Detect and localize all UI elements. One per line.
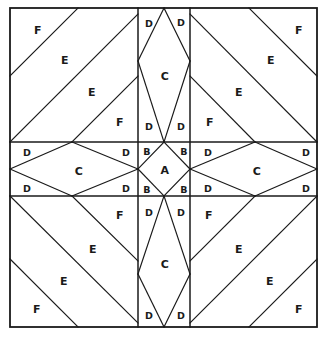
- piece-label-d: D: [145, 18, 153, 29]
- piece-label-a: A: [161, 164, 170, 177]
- quilt-block-diagram: FEEFDDCDDFEEFDCDDDBBABBDCDDDFEEFDDCDDFEE…: [0, 0, 326, 343]
- piece-label-d: D: [177, 121, 185, 132]
- piece-label-f: F: [206, 116, 214, 129]
- piece-label-e: E: [235, 243, 243, 256]
- piece-label-d: D: [204, 183, 212, 194]
- piece-label-e: E: [61, 54, 69, 67]
- piece-label-d: D: [302, 147, 310, 158]
- piece-label-d: D: [302, 183, 310, 194]
- piece-label-f: F: [33, 303, 41, 316]
- piece-label-b: B: [143, 146, 151, 157]
- piece-label-f: F: [295, 303, 303, 316]
- piece-label-d: D: [145, 207, 153, 218]
- piece-label-c: C: [161, 258, 169, 271]
- piece-label-e: E: [266, 275, 274, 288]
- piece-label-b: B: [180, 146, 188, 157]
- piece-label-d: D: [23, 147, 31, 158]
- piece-label-e: E: [89, 243, 97, 256]
- piece-label-e: E: [267, 54, 275, 67]
- piece-label-d: D: [23, 183, 31, 194]
- piece-label-d: D: [145, 121, 153, 132]
- piece-label-c: C: [161, 70, 169, 83]
- piece-label-f: F: [34, 24, 42, 37]
- piece-label-d: D: [145, 310, 153, 321]
- piece-label-e: E: [60, 275, 68, 288]
- piece-label-d: D: [122, 183, 130, 194]
- piece-label-f: F: [205, 209, 213, 222]
- quilt-diagram-page: FEEFDDCDDFEEFDCDDDBBABBDCDDDFEEFDDCDDFEE…: [0, 0, 326, 343]
- piece-label-f: F: [295, 24, 303, 37]
- piece-label-d: D: [177, 310, 185, 321]
- piece-label-c: C: [253, 165, 261, 178]
- piece-label-b: B: [143, 184, 151, 195]
- piece-label-c: C: [75, 165, 83, 178]
- piece-label-d: D: [204, 147, 212, 158]
- piece-label-d: D: [177, 207, 185, 218]
- piece-label-e: E: [235, 86, 243, 99]
- piece-label-d: D: [122, 147, 130, 158]
- piece-label-d: D: [177, 17, 185, 28]
- piece-label-b: B: [180, 184, 188, 195]
- piece-label-f: F: [116, 209, 124, 222]
- piece-label-e: E: [88, 86, 96, 99]
- piece-label-f: F: [116, 116, 124, 129]
